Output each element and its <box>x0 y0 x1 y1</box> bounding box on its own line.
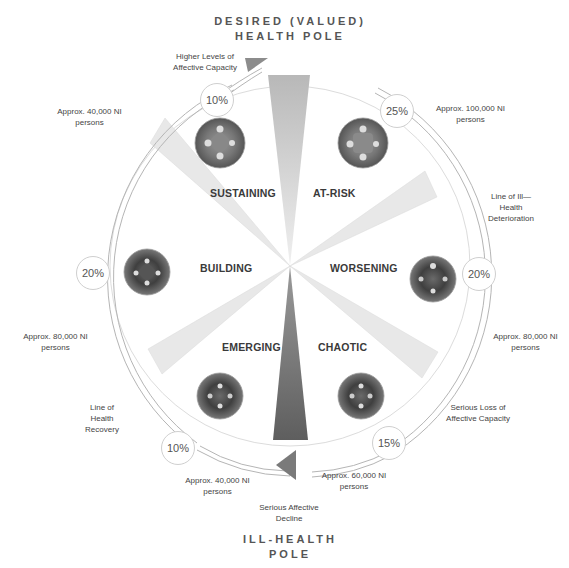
sphere-worsening <box>410 256 456 302</box>
percent-badge-sustaining: 10% <box>200 83 234 117</box>
segment-label-sustaining: SUSTAINING <box>210 187 276 199</box>
annotation-serious-loss: Serious Loss of Affective Capacity <box>438 402 518 424</box>
bottom-pole-title: ILL-HEALTH POLE <box>210 532 370 562</box>
sphere-building <box>124 249 170 295</box>
percent-badge-chaotic: 15% <box>372 426 406 460</box>
sphere-at-risk <box>338 118 388 168</box>
top-pole-title: DESIRED (VALUED) HEALTH POLE <box>190 14 390 44</box>
segment-label-at-risk: AT-RISK <box>313 187 356 199</box>
annotation-serious-decline: Serious Affective Decline <box>254 502 324 524</box>
top-pole-line2: HEALTH POLE <box>190 29 390 44</box>
annotation-health-recovery: Line of Health Recovery <box>82 402 122 435</box>
segment-label-building: BUILDING <box>200 262 252 274</box>
population-label-building: Approx. 80,000 NI persons <box>18 331 93 353</box>
top-pole-line1: DESIRED (VALUED) <box>190 14 390 29</box>
population-label-worsening: Approx. 80,000 NI persons <box>488 331 563 353</box>
sphere-sustaining <box>195 118 245 168</box>
sphere-emerging <box>197 373 243 419</box>
percent-badge-emerging: 10% <box>161 431 195 465</box>
bottom-wedge <box>273 266 308 440</box>
bottom-pole-line1: ILL-HEALTH <box>210 532 370 547</box>
percent-badge-at-risk: 25% <box>380 94 414 128</box>
annotation-higher-levels: Higher Levels of Affective Capacity <box>165 51 245 73</box>
percent-badge-worsening: 20% <box>462 257 496 291</box>
segment-label-emerging: EMERGING <box>222 341 281 353</box>
population-label-sustaining: Approx. 40,000 NI persons <box>52 106 127 128</box>
population-label-chaotic: Approx. 60,000 NI persons <box>318 470 390 492</box>
bottom-pole-line2: POLE <box>210 547 370 562</box>
percent-badge-building: 20% <box>76 256 110 290</box>
top-wedge <box>268 75 310 266</box>
arrow-up-icon <box>245 58 268 72</box>
sphere-chaotic <box>338 373 384 419</box>
segment-label-worsening: WORSENING <box>330 262 398 274</box>
annotation-ill-health-line: Line of Ill—Health Deterioration <box>480 191 542 224</box>
segment-label-chaotic: CHAOTIC <box>318 341 367 353</box>
population-label-at-risk: Approx. 100,000 NI persons <box>428 103 513 125</box>
population-label-emerging: Approx. 40,000 NI persons <box>180 475 255 497</box>
